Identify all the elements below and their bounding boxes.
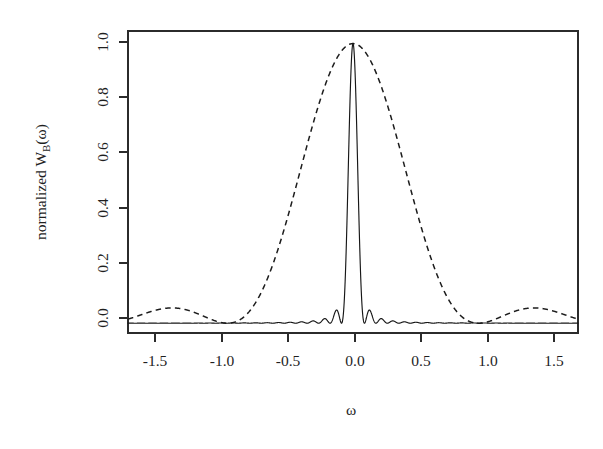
figure-container: -1.5 -1.0 -0.5 0.0 0.5 1.0 1.5 0.0 0.2 0… <box>0 0 603 449</box>
y-tick-label: 0.6 <box>94 142 111 162</box>
y-tick-label: 0.4 <box>94 198 111 218</box>
svg-text:normalized WB(ω): normalized WB(ω) <box>32 124 52 240</box>
y-axis-title-main: normalized W <box>32 152 49 240</box>
y-tick-label: 1.0 <box>94 32 111 52</box>
x-tick-label: -1.0 <box>210 352 235 369</box>
y-axis-title-argument: (ω) <box>32 124 50 145</box>
y-tick-label: 0.0 <box>94 308 111 328</box>
plot-frame <box>128 31 578 333</box>
x-tick-label: 0.0 <box>345 352 365 369</box>
y-axis-title: normalized WB(ω) <box>32 124 52 240</box>
y-tick-marks <box>119 42 128 318</box>
y-tick-label: 0.8 <box>94 87 111 107</box>
spectral-window-chart: -1.5 -1.0 -0.5 0.0 0.5 1.0 1.5 0.0 0.2 0… <box>0 0 603 449</box>
y-tick-label: 0.2 <box>94 253 111 272</box>
wide-spectral-window-curve <box>128 44 578 324</box>
x-tick-label: 0.5 <box>411 352 431 369</box>
x-tick-labels: -1.5 -1.0 -0.5 0.0 0.5 1.0 1.5 <box>143 352 564 369</box>
x-tick-label: 1.0 <box>478 352 498 369</box>
y-tick-labels: 0.0 0.2 0.4 0.6 0.8 1.0 <box>94 32 111 328</box>
narrow-spectral-window-curve <box>128 44 578 324</box>
x-tick-marks <box>155 333 554 342</box>
x-tick-label: 1.5 <box>544 352 564 369</box>
y-axis-title-subscript: B <box>40 145 52 152</box>
x-tick-label: -1.5 <box>143 352 168 369</box>
x-axis-title: ω <box>346 401 356 418</box>
x-tick-label: -0.5 <box>276 352 301 369</box>
